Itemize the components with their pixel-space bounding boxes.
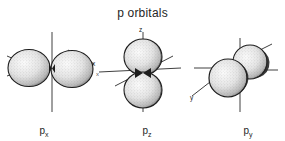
orbital-caption-subscript-px: x bbox=[45, 131, 49, 138]
figure-title: p orbitals bbox=[0, 6, 285, 20]
orbital-lobe-right-px bbox=[51, 51, 93, 88]
orbital-caption-py: py bbox=[218, 126, 278, 138]
orbital-drawing-py: y bbox=[188, 24, 283, 119]
orbital-drawing-px: x bbox=[2, 24, 97, 119]
orbital-caption-subscript-pz: z bbox=[148, 131, 152, 138]
orbital-caption-px: px bbox=[14, 126, 74, 138]
orbital-lobe-top-pz bbox=[124, 39, 162, 75]
orbital-caption-subscript-py: y bbox=[249, 131, 253, 138]
orbital-caption-pz: pz bbox=[117, 126, 177, 138]
p-orbitals-figure: p orbitals bbox=[0, 0, 285, 141]
orbital-drawing-pz: z x bbox=[95, 24, 190, 119]
axis-label-x-pz: x bbox=[96, 71, 99, 77]
axis-label-z-pz: z bbox=[139, 26, 142, 33]
orbital-diagram-px: x px bbox=[2, 24, 97, 141]
orbital-diagram-pz: z x pz bbox=[95, 24, 190, 141]
orbital-diagram-py: y py bbox=[188, 24, 283, 141]
orbital-lobe-bottom-pz bbox=[124, 72, 162, 108]
orbital-lobe-left-px bbox=[8, 50, 50, 87]
